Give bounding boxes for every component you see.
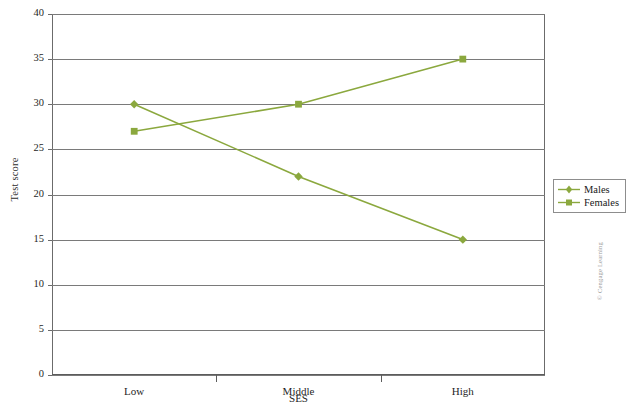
line-chart-figure: Test score 0510152025303540 LowMiddleHig… bbox=[0, 0, 637, 416]
data-point-marker-females bbox=[131, 128, 138, 135]
data-point-marker-males bbox=[459, 235, 467, 243]
legend-item-males[interactable]: Males bbox=[558, 183, 619, 196]
y-axis-tick-label: 15 bbox=[18, 233, 44, 244]
y-axis-tick-label: 35 bbox=[18, 52, 44, 63]
y-axis-tick-label: 30 bbox=[18, 97, 44, 108]
data-point-marker-females bbox=[459, 56, 466, 63]
plot-area: 0510152025303540 LowMiddleHigh bbox=[52, 14, 545, 375]
x-axis-title: SES bbox=[52, 392, 545, 404]
y-axis-tick-label: 10 bbox=[18, 278, 44, 289]
y-axis-tick-label: 5 bbox=[18, 323, 44, 334]
data-point-marker-males bbox=[130, 100, 138, 108]
y-axis-tick-label: 25 bbox=[18, 142, 44, 153]
legend-marker-square-icon bbox=[558, 197, 580, 208]
legend-marker-diamond-icon bbox=[558, 184, 580, 195]
gridline bbox=[52, 375, 545, 376]
x-axis-tick-mark bbox=[381, 375, 382, 382]
copyright-credit: © Cengage Learning bbox=[596, 190, 603, 300]
data-series-layer bbox=[52, 14, 545, 375]
series-line-females bbox=[134, 59, 463, 131]
legend-item-females[interactable]: Females bbox=[558, 196, 619, 209]
y-axis-tick-mark bbox=[48, 375, 52, 376]
y-axis-tick-label: 20 bbox=[18, 188, 44, 199]
x-axis-tick-mark bbox=[216, 375, 217, 382]
chart-legend: Males Females bbox=[553, 179, 626, 213]
data-point-marker-males bbox=[294, 172, 302, 180]
y-axis-tick-label: 40 bbox=[18, 7, 44, 18]
data-point-marker-females bbox=[295, 101, 302, 108]
y-axis-tick-label: 0 bbox=[18, 368, 44, 379]
series-line-males bbox=[134, 104, 463, 239]
